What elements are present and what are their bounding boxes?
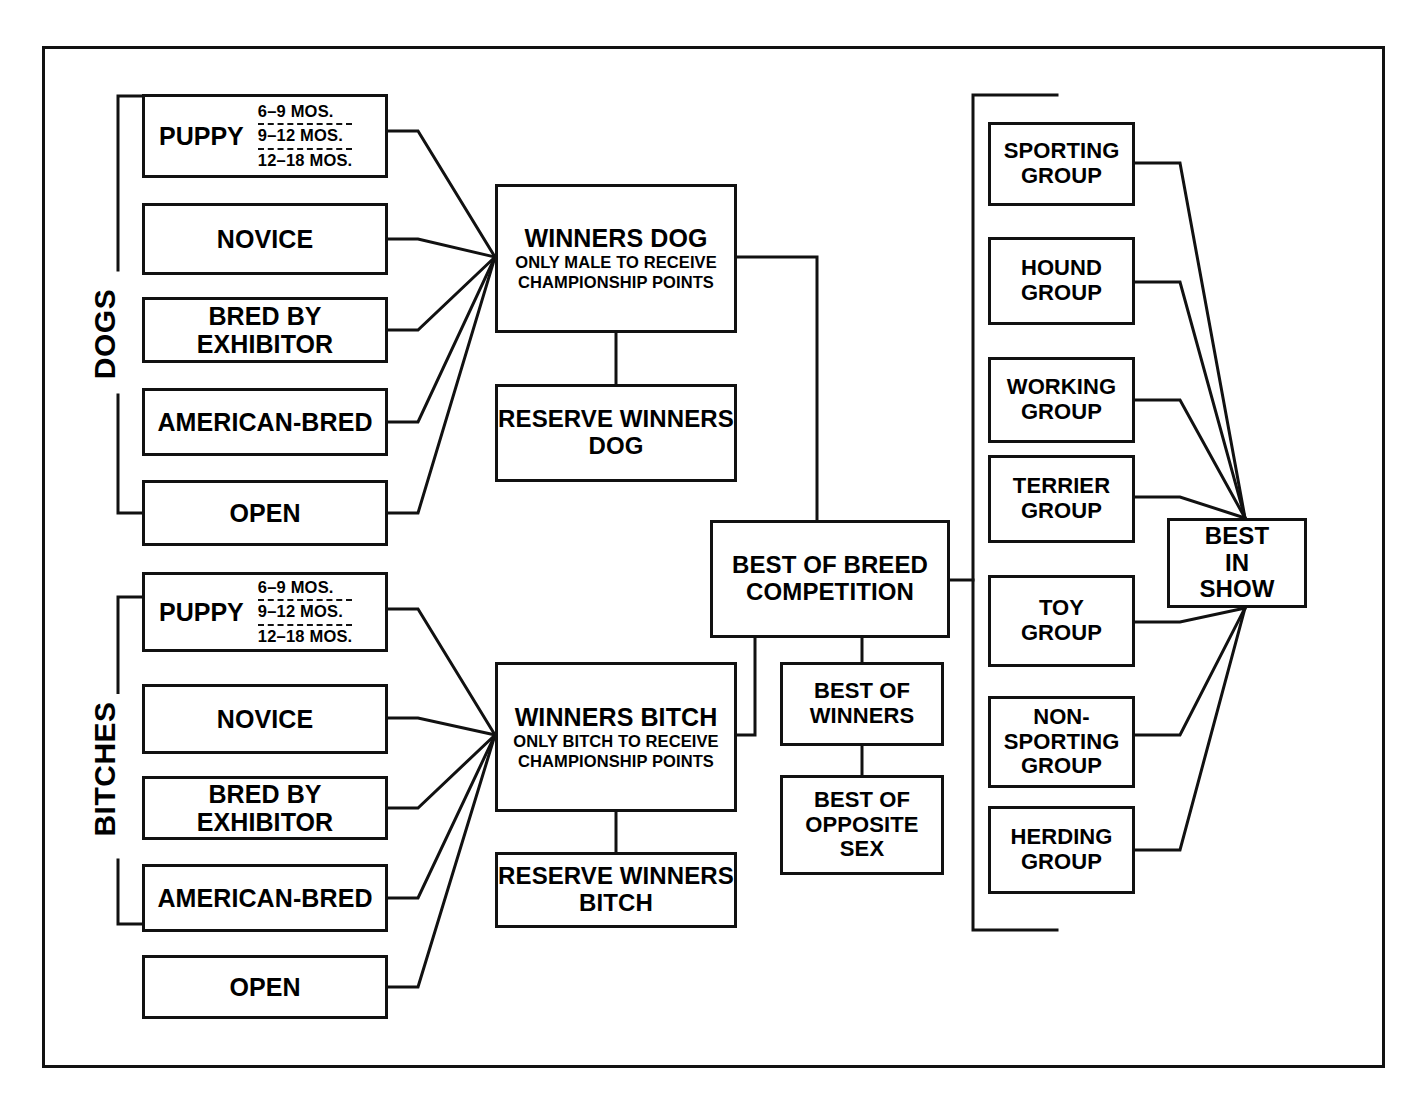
puppy-age-6-9: 6–9 MOS. (258, 101, 353, 125)
class-box-bitch-novice[interactable]: NOVICE (142, 684, 388, 754)
class-box-bitch-bred-by-exhibitor[interactable]: BRED BY EXHIBITOR (142, 776, 388, 840)
class-label-bred-by-exhibitor: BRED BY EXHIBITOR (145, 302, 385, 358)
node-reserve-winners-bitch[interactable]: RESERVE WINNERS BITCH (495, 852, 737, 928)
puppy-age-9-12-bitch: 9–12 MOS. (258, 601, 353, 625)
group-label-hound: HOUND GROUP (1021, 256, 1102, 305)
group-label-terrier: TERRIER GROUP (1013, 474, 1110, 523)
node-best-of-winners[interactable]: BEST OF WINNERS (780, 662, 944, 746)
reserve-winners-dog-title: RESERVE WINNERS DOG (498, 406, 734, 460)
class-box-dog-novice[interactable]: NOVICE (142, 203, 388, 275)
class-label-bred-by-exhibitor-bitch: BRED BY EXHIBITOR (145, 780, 385, 836)
group-label-working: WORKING GROUP (1007, 375, 1116, 424)
winners-dog-subtitle: ONLY MALE TO RECEIVE CHAMPIONSHIP POINTS (515, 253, 717, 293)
node-winners-bitch[interactable]: WINNERS BITCH ONLY BITCH TO RECEIVE CHAM… (495, 662, 737, 812)
section-label-bitches: BITCHES (86, 694, 124, 844)
winners-bitch-subtitle: ONLY BITCH TO RECEIVE CHAMPIONSHIP POINT… (513, 732, 718, 772)
group-label-herding: HERDING GROUP (1010, 825, 1112, 874)
class-box-dog-puppy[interactable]: PUPPY 6–9 MOS. 9–12 MOS. 12–18 MOS. (142, 94, 388, 178)
best-of-winners-title: BEST OF WINNERS (810, 679, 915, 728)
class-box-bitch-open[interactable]: OPEN (142, 955, 388, 1019)
node-best-in-show[interactable]: BEST IN SHOW (1167, 518, 1307, 608)
class-box-dog-bred-by-exhibitor[interactable]: BRED BY EXHIBITOR (142, 297, 388, 363)
puppy-age-9-12: 9–12 MOS. (258, 125, 353, 149)
winners-dog-title: WINNERS DOG (524, 224, 707, 252)
class-box-dog-american-bred[interactable]: AMERICAN-BRED (142, 388, 388, 456)
node-group-herding[interactable]: HERDING GROUP (988, 806, 1135, 894)
class-label-novice-bitch: NOVICE (217, 705, 313, 733)
puppy-age-list: 6–9 MOS. 9–12 MOS. 12–18 MOS. (258, 101, 353, 171)
winners-bitch-title: WINNERS BITCH (515, 703, 718, 731)
node-winners-dog[interactable]: WINNERS DOG ONLY MALE TO RECEIVE CHAMPIO… (495, 184, 737, 333)
node-group-terrier[interactable]: TERRIER GROUP (988, 455, 1135, 543)
best-of-breed-title: BEST OF BREED COMPETITION (732, 552, 928, 606)
group-label-toy: TOY GROUP (1021, 596, 1102, 645)
node-group-non-sporting[interactable]: NON- SPORTING GROUP (988, 696, 1135, 788)
class-label-novice: NOVICE (217, 225, 313, 253)
node-reserve-winners-dog[interactable]: RESERVE WINNERS DOG (495, 384, 737, 482)
group-label-non-sporting: NON- SPORTING GROUP (1004, 705, 1120, 779)
class-box-bitch-american-bred[interactable]: AMERICAN-BRED (142, 864, 388, 932)
class-box-bitch-puppy[interactable]: PUPPY 6–9 MOS. 9–12 MOS. 12–18 MOS. (142, 572, 388, 652)
class-label-open: OPEN (229, 499, 300, 527)
node-group-sporting[interactable]: SPORTING GROUP (988, 122, 1135, 206)
group-label-sporting: SPORTING GROUP (1004, 139, 1120, 188)
node-best-of-breed[interactable]: BEST OF BREED COMPETITION (710, 520, 950, 638)
puppy-age-6-9-bitch: 6–9 MOS. (258, 577, 353, 601)
node-best-of-opposite-sex[interactable]: BEST OF OPPOSITE SEX (780, 775, 944, 875)
best-of-opposite-sex-title: BEST OF OPPOSITE SEX (805, 788, 918, 862)
class-label-open-bitch: OPEN (229, 973, 300, 1001)
class-label-puppy-bitch: PUPPY (159, 598, 244, 626)
node-group-hound[interactable]: HOUND GROUP (988, 237, 1135, 325)
section-label-dogs: DOGS (86, 279, 124, 389)
puppy-age-12-18-bitch: 12–18 MOS. (258, 626, 353, 648)
class-label-puppy: PUPPY (159, 122, 244, 150)
puppy-age-list-bitch: 6–9 MOS. 9–12 MOS. 12–18 MOS. (258, 577, 353, 647)
puppy-age-12-18: 12–18 MOS. (258, 150, 353, 172)
node-group-toy[interactable]: TOY GROUP (988, 575, 1135, 667)
reserve-winners-bitch-title: RESERVE WINNERS BITCH (498, 863, 734, 917)
node-group-working[interactable]: WORKING GROUP (988, 357, 1135, 443)
class-label-american-bred-bitch: AMERICAN-BRED (157, 884, 372, 912)
diagram-canvas: DOGS BITCHES PUPPY 6–9 MOS. 9–12 MOS. 12… (0, 0, 1410, 1106)
class-box-dog-open[interactable]: OPEN (142, 480, 388, 546)
best-in-show-title: BEST IN SHOW (1199, 523, 1274, 604)
class-label-american-bred: AMERICAN-BRED (157, 408, 372, 436)
